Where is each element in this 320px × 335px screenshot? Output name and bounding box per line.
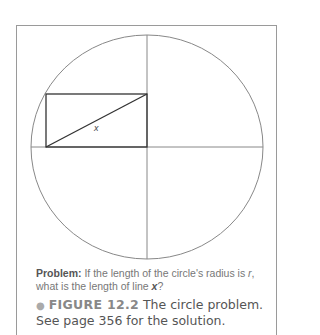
bullet-icon: ● <box>36 300 45 311</box>
diagonal-line-x <box>46 94 147 147</box>
figure-label: FIGURE 12.2 <box>49 297 139 312</box>
problem-text-1: If the length of the circle's radius is <box>82 267 249 279</box>
problem-label: Problem: <box>36 267 82 279</box>
figure-caption: ● FIGURE 12.2 The circle problem. See pa… <box>36 297 276 328</box>
problem-text: Problem: If the length of the circle's r… <box>36 267 276 293</box>
x-label: x <box>93 123 99 133</box>
problem-end: ? <box>157 280 163 292</box>
